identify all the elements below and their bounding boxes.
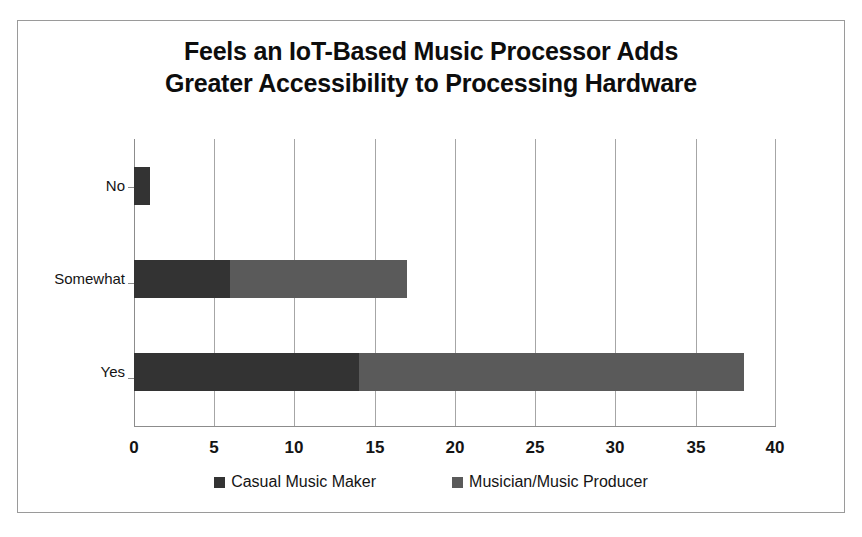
legend-item-casual-music-maker[interactable]: Casual Music Maker <box>214 473 376 491</box>
legend-swatch-musician-music-producer <box>452 477 463 488</box>
chart-frame: Feels an IoT-Based Music Processor Adds … <box>17 20 845 513</box>
x-axis-tick-labels: 0 5 10 15 20 25 30 35 40 <box>134 426 776 458</box>
legend-label-casual-music-maker: Casual Music Maker <box>231 473 376 491</box>
legend-swatch-casual-music-maker <box>214 477 225 488</box>
x-tick-label-20: 20 <box>446 438 465 458</box>
gridline-40 <box>775 139 776 426</box>
legend-item-musician-music-producer[interactable]: Musician/Music Producer <box>452 473 648 491</box>
category-label-yes: Yes <box>0 353 125 391</box>
category-label-somewhat: Somewhat <box>0 260 125 298</box>
bar-segment-yes-musician-music-producer[interactable] <box>359 353 744 391</box>
x-tick-label-10: 10 <box>285 438 304 458</box>
x-tick-label-40: 40 <box>766 438 785 458</box>
chart-title-line-1: Feels an IoT-Based Music Processor Adds <box>18 35 844 67</box>
bar-row-no[interactable]: No <box>134 167 150 205</box>
chart-title: Feels an IoT-Based Music Processor Adds … <box>18 35 844 99</box>
chart-legend: Casual Music Maker Musician/Music Produc… <box>18 473 844 491</box>
x-tick-label-0: 0 <box>129 438 138 458</box>
category-label-no: No <box>0 167 125 205</box>
chart-title-line-2: Greater Accessibility to Processing Hard… <box>18 67 844 99</box>
legend-label-musician-music-producer: Musician/Music Producer <box>469 473 648 491</box>
bar-segment-somewhat-musician-music-producer[interactable] <box>230 260 407 298</box>
plot-area: No Somewhat Yes <box>134 139 776 426</box>
bar-segment-no-casual-music-maker[interactable] <box>134 167 150 205</box>
x-tick-label-35: 35 <box>687 438 706 458</box>
x-tick-label-30: 30 <box>606 438 625 458</box>
bar-row-yes[interactable]: Yes <box>134 353 744 391</box>
x-tick-label-15: 15 <box>366 438 385 458</box>
bar-segment-yes-casual-music-maker[interactable] <box>134 353 359 391</box>
x-tick-label-5: 5 <box>209 438 218 458</box>
bar-segment-somewhat-casual-music-maker[interactable] <box>134 260 230 298</box>
bar-row-somewhat[interactable]: Somewhat <box>134 260 407 298</box>
x-tick-label-25: 25 <box>526 438 545 458</box>
